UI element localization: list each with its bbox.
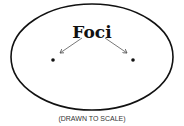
scale-caption: (DRAWN TO SCALE) <box>58 115 125 123</box>
right-arrow <box>105 38 127 53</box>
right-focus-point <box>131 58 135 62</box>
left-focus-point <box>51 58 55 62</box>
ellipse-diagram: Foci (DRAWN TO SCALE) <box>0 0 184 126</box>
ellipse-outline <box>11 4 173 110</box>
left-arrow <box>60 38 82 53</box>
